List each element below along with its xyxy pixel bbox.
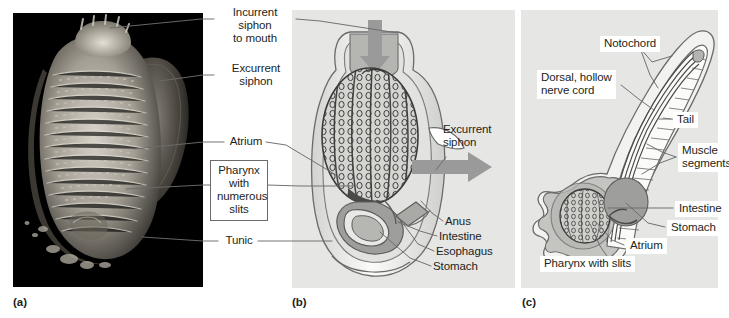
panel-caption-c: (c) [522, 296, 536, 308]
label-atrium-a: Atrium [224, 135, 268, 148]
label-esophagus: Esophagus [436, 245, 493, 258]
label-pharynx-numerous-slits: Pharynx with numerous slits [210, 160, 268, 221]
tunicate-anatomy-figure: Incurrent siphon to mouth Excurrent siph… [0, 0, 729, 318]
label-tail: Tail [673, 112, 698, 128]
tunicate-photograph [13, 13, 203, 287]
label-stomach-c: Stomach [667, 220, 720, 236]
label-tunic: Tunic [218, 234, 260, 247]
panel-caption-b: (b) [292, 296, 307, 308]
label-pharynx-with-slits-c: Pharynx with slits [540, 256, 635, 272]
label-stomach-b: Stomach [433, 260, 478, 273]
label-incurrent-siphon: Incurrent siphon to mouth [214, 6, 296, 45]
panel-a-photograph [13, 13, 203, 287]
label-nerve-cord: Dorsal, hollow nerve cord [537, 70, 616, 99]
label-atrium-c: Atrium [626, 238, 667, 254]
label-excurrent-siphon-a: Excurrent siphon [216, 62, 296, 88]
label-anus: Anus [445, 215, 471, 228]
panel-caption-a: (a) [13, 296, 27, 308]
label-intestine-b: Intestine [439, 230, 482, 243]
label-intestine-c: Intestine [675, 201, 726, 217]
label-muscle-segments: Muscle segments [678, 143, 726, 172]
label-excurrent-siphon-b: Excurrent siphon [443, 123, 517, 149]
label-notochord: Notochord [600, 36, 660, 52]
